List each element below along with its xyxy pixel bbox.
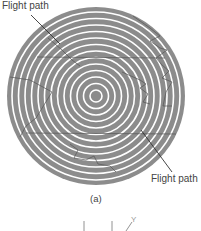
flight-path-label-bottom: Flight path xyxy=(151,173,198,184)
disk xyxy=(7,7,185,185)
axis-y-label: Y xyxy=(131,215,136,224)
axis-fragments xyxy=(84,221,132,231)
flight-path-label-top: Flight path xyxy=(2,0,49,11)
figure-caption: (a) xyxy=(90,193,102,204)
